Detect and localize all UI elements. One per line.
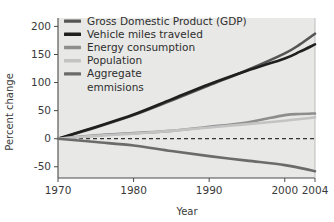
y-tick-label: 200: [31, 20, 51, 32]
y-tick-label: 0: [44, 132, 51, 144]
y-tick-label: 150: [31, 48, 51, 60]
y-axis-title: Percent change: [4, 73, 15, 151]
x-tick-label: 1990: [196, 184, 223, 196]
x-axis-title: Year: [175, 206, 198, 217]
legend-label: Energy consumption: [87, 41, 195, 53]
legend-swatch: [64, 33, 81, 36]
y-tick-label: 100: [31, 76, 51, 88]
legend-swatch: [64, 46, 81, 49]
x-tick-label: 2000: [271, 184, 298, 196]
legend-label: Gross Domestic Product (GDP): [87, 15, 247, 27]
legend-label: emmisions: [87, 81, 144, 93]
legend-swatch: [64, 72, 81, 75]
legend-label: Aggregate: [87, 67, 142, 79]
y-tick-label: 50: [38, 104, 51, 116]
x-tick-label: 1970: [45, 184, 72, 196]
legend-swatch: [64, 59, 81, 62]
legend-swatch: [64, 19, 81, 22]
legend-label: Population: [87, 54, 142, 66]
y-tick-label: -50: [34, 160, 51, 172]
legend-label: Vehicle miles traveled: [87, 28, 203, 40]
percent-change-line-chart: -50050100150200 19701980199020002004 Gro…: [0, 0, 334, 222]
chart-figure: -50050100150200 19701980199020002004 Gro…: [0, 0, 334, 222]
x-tick-label: 1980: [120, 184, 147, 196]
x-tick-label: 2004: [302, 184, 329, 196]
